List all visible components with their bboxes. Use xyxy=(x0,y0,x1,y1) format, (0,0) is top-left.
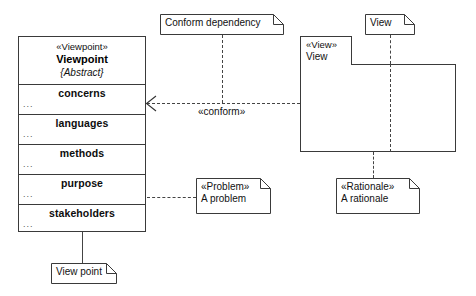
note-stereotype: «Problem» xyxy=(201,181,257,193)
compartment-stakeholders[interactable]: stakeholders ... xyxy=(19,204,145,233)
compartment-title-stakeholders: stakeholders xyxy=(19,207,145,220)
note-anchor-conform-dependency xyxy=(222,35,223,103)
note-line: A rationale xyxy=(341,193,406,205)
note-view-text: View xyxy=(365,14,415,31)
conform-dependency-line[interactable] xyxy=(147,103,300,104)
note-line: Conform dependency xyxy=(165,17,270,29)
note-anchor-view-inside xyxy=(390,64,391,152)
compartment-languages[interactable]: languages ... xyxy=(19,114,145,144)
class-name: Viewpoint xyxy=(19,53,145,66)
class-stereotype: «Viewpoint» xyxy=(19,41,145,53)
note-rationale[interactable]: «Rationale» A rationale xyxy=(336,178,420,214)
uml-diagram-canvas: «Viewpoint» Viewpoint {Abstract} concern… xyxy=(0,0,476,296)
compartment-purpose[interactable]: purpose ... xyxy=(19,174,145,204)
view-package-stereotype: «View» xyxy=(301,37,351,51)
view-package-name: View xyxy=(301,51,351,63)
compartment-title-methods: methods xyxy=(19,147,145,160)
class-abstract-marker: {Abstract} xyxy=(19,66,145,79)
compartment-methods[interactable]: methods ... xyxy=(19,144,145,174)
note-view[interactable]: View xyxy=(365,14,415,35)
compartment-dots-languages: ... xyxy=(19,130,145,139)
compartment-concerns[interactable]: concerns ... xyxy=(19,84,145,114)
view-package-tab[interactable]: «View» View xyxy=(300,36,352,65)
note-anchor-view-top xyxy=(390,35,391,64)
conform-edge-label: «conform» xyxy=(196,106,247,117)
compartment-dots-methods: ... xyxy=(19,160,145,169)
class-header-compartment: «Viewpoint» Viewpoint {Abstract} xyxy=(19,37,145,84)
compartment-title-purpose: purpose xyxy=(19,177,145,190)
note-anchor-view-point xyxy=(82,232,83,263)
note-line: View xyxy=(370,17,401,29)
compartment-title-concerns: concerns xyxy=(19,87,145,100)
conform-arrowhead-icon xyxy=(143,95,159,112)
view-package-body[interactable] xyxy=(300,64,456,152)
compartment-dots-stakeholders: ... xyxy=(19,220,145,229)
note-line: A problem xyxy=(201,193,257,205)
viewpoint-class-box[interactable]: «Viewpoint» Viewpoint {Abstract} concern… xyxy=(18,36,146,232)
note-view-point[interactable]: View point xyxy=(51,263,117,284)
note-stereotype: «Rationale» xyxy=(341,181,406,193)
note-conform-dependency[interactable]: Conform dependency xyxy=(160,14,284,35)
note-rationale-text: «Rationale» A rationale xyxy=(336,178,420,207)
compartment-title-languages: languages xyxy=(19,117,145,130)
note-problem-text: «Problem» A problem xyxy=(196,178,271,207)
compartment-dots-concerns: ... xyxy=(19,100,145,109)
note-anchor-problem xyxy=(147,197,196,198)
note-anchor-rationale xyxy=(373,152,374,178)
note-conform-dependency-text: Conform dependency xyxy=(160,14,284,31)
note-problem[interactable]: «Problem» A problem xyxy=(196,178,271,214)
note-view-point-text: View point xyxy=(51,263,117,280)
compartment-dots-purpose: ... xyxy=(19,190,145,199)
note-line: View point xyxy=(56,266,103,278)
